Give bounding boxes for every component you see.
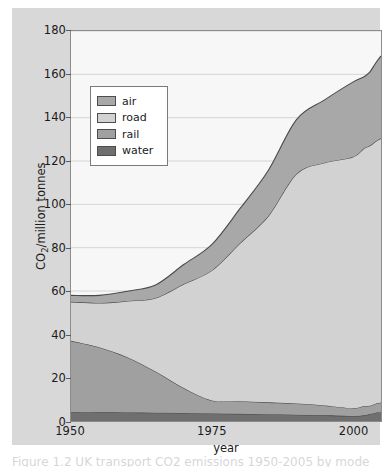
x-tick-label: 2000 bbox=[339, 424, 369, 438]
y-tick-mark bbox=[66, 204, 71, 205]
y-tick-mark bbox=[66, 291, 71, 292]
legend-label-water: water bbox=[122, 145, 153, 156]
y-tick-label: 160 bbox=[44, 67, 66, 81]
y-tick-mark bbox=[66, 248, 71, 249]
figure-panel: CO2/million tonnes 020406080100120140160… bbox=[12, 8, 380, 445]
y-tick-mark bbox=[66, 117, 71, 118]
y-tick-mark bbox=[66, 30, 71, 31]
legend-label-air: air bbox=[122, 96, 136, 107]
y-tick-label: 40 bbox=[51, 328, 66, 342]
legend-swatch-air bbox=[97, 96, 116, 106]
y-tick-label: 60 bbox=[51, 284, 66, 298]
legend-item-water: water bbox=[97, 143, 161, 158]
y-tick-label: 120 bbox=[44, 154, 66, 168]
x-axis-title: year bbox=[70, 441, 382, 455]
legend-swatch-water bbox=[97, 146, 116, 156]
y-tick-mark bbox=[66, 422, 71, 423]
y-tick-mark bbox=[66, 335, 71, 336]
figure-page: CO2/million tonnes 020406080100120140160… bbox=[0, 0, 392, 467]
y-axis-ticks: 020406080100120140160180 bbox=[26, 30, 66, 422]
y-tick-mark bbox=[66, 161, 71, 162]
legend-swatch-road bbox=[97, 113, 116, 123]
y-tick-mark bbox=[66, 74, 71, 75]
chart-legend: airroadrailwater bbox=[90, 86, 168, 166]
figure-caption: Figure 1.2 UK transport CO2 emissions 19… bbox=[12, 455, 380, 467]
y-tick-label: 80 bbox=[51, 241, 66, 255]
y-tick-label: 100 bbox=[44, 197, 66, 211]
legend-item-rail: rail bbox=[97, 127, 161, 142]
y-tick-label: 20 bbox=[51, 371, 66, 385]
legend-item-road: road bbox=[97, 110, 161, 125]
y-tick-mark bbox=[66, 378, 71, 379]
legend-item-air: air bbox=[97, 94, 161, 109]
y-tick-label: 140 bbox=[44, 110, 66, 124]
legend-label-road: road bbox=[122, 112, 147, 123]
x-tick-label: 1950 bbox=[55, 424, 85, 438]
legend-label-rail: rail bbox=[122, 129, 139, 140]
x-tick-label: 1975 bbox=[197, 424, 227, 438]
y-tick-label: 180 bbox=[44, 23, 66, 37]
legend-swatch-rail bbox=[97, 129, 116, 139]
